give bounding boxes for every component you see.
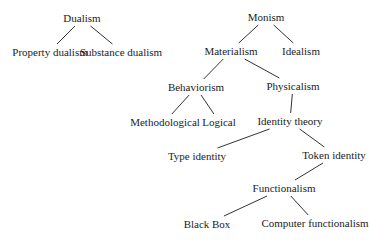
edge-functionalism-to-computer-functionalism bbox=[291, 196, 308, 215]
node-dualism: Dualism bbox=[63, 13, 100, 24]
node-computer-functionalism: Computer functionalism bbox=[261, 218, 368, 229]
node-identity-theory: Identity theory bbox=[257, 116, 322, 127]
node-substance-dualism: Substance dualism bbox=[80, 47, 162, 58]
edge-materialism-to-physicalism bbox=[245, 59, 280, 78]
edge-physicalism-to-identity-theory bbox=[291, 94, 293, 113]
edge-behaviorism-to-logical bbox=[201, 95, 214, 114]
edge-monism-to-materialism bbox=[239, 25, 259, 43]
edge-identity-theory-to-type-identity bbox=[217, 129, 269, 148]
edge-identity-theory-to-token-identity bbox=[300, 129, 325, 147]
edge-materialism-to-behaviorism bbox=[204, 59, 224, 79]
node-methodological: Methodological bbox=[130, 117, 200, 128]
node-materialism: Materialism bbox=[204, 46, 257, 57]
node-logical: Logical bbox=[202, 117, 236, 128]
node-type-identity: Type identity bbox=[168, 151, 226, 162]
edge-behaviorism-to-methodological bbox=[172, 95, 189, 114]
node-black-box: Black Box bbox=[184, 219, 231, 230]
edge-monism-to-idealism bbox=[274, 25, 294, 43]
edge-dualism-to-substance-dualism bbox=[91, 26, 113, 44]
node-monism: Monism bbox=[248, 12, 285, 23]
node-behaviorism: Behaviorism bbox=[168, 82, 224, 93]
node-idealism: Idealism bbox=[282, 46, 320, 57]
node-functionalism: Functionalism bbox=[253, 183, 316, 194]
edge-token-identity-to-functionalism bbox=[295, 163, 323, 180]
edge-dualism-to-property-dualism bbox=[57, 26, 75, 44]
node-token-identity: Token identity bbox=[302, 150, 366, 161]
node-property-dualism: Property dualism bbox=[12, 47, 87, 58]
node-physicalism: Physicalism bbox=[266, 81, 319, 92]
edge-functionalism-to-black-box bbox=[224, 196, 267, 216]
diagram-canvas: Dualism Property dualism Substance duali… bbox=[0, 0, 369, 245]
